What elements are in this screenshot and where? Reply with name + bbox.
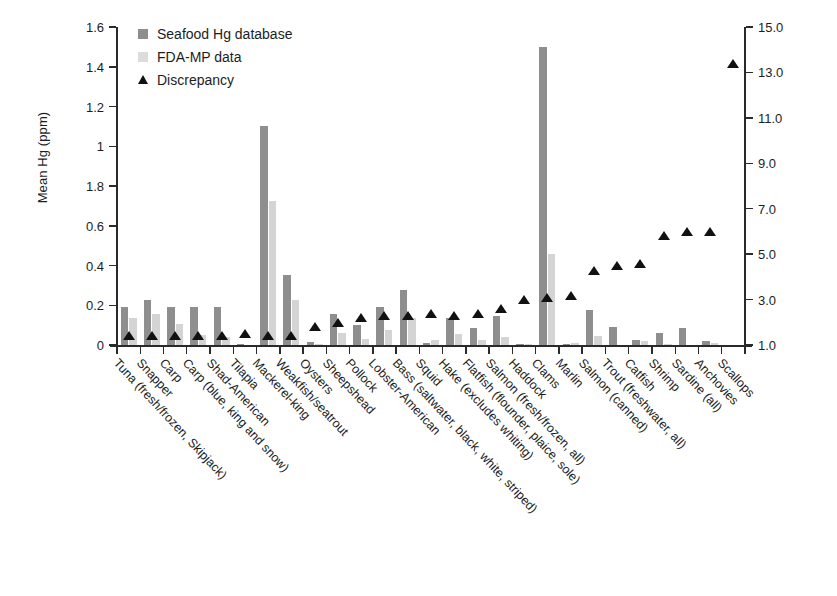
bar-group [652,27,675,345]
discrepancy-marker-triangle-icon [518,295,530,304]
right-tick-label: 5.0 [758,247,776,262]
legend-label: Seafood Hg database [157,26,292,42]
right-tick-mark [746,72,753,74]
x-tick-mark [512,346,513,354]
discrepancy-marker-triangle-icon [681,227,693,236]
x-tick-mark [116,346,117,354]
x-tick-mark [721,346,722,354]
left-tick-mark [109,106,116,108]
left-tick-mark [109,225,116,227]
bar-fda-mp-data [594,336,602,345]
legend-label: FDA-MP data [157,49,242,65]
legend-swatch-triangle-icon [138,75,148,84]
bar-group [675,27,698,345]
bar-group [489,27,512,345]
right-tick-label: 11.0 [758,110,782,125]
x-tick-mark [535,346,536,354]
discrepancy-marker-triangle-icon [262,331,274,340]
bar-fda-mp-data [455,334,463,345]
bar-fda-mp-data [641,341,649,345]
right-axis-ticks: 1.03.05.07.09.011.013.015.0 [746,27,836,346]
right-tick-label: 13.0 [758,65,783,80]
bar-seafood-hg-database [493,316,501,345]
chart-legend: Seafood Hg database FDA-MP data Discrepa… [138,22,292,91]
x-tick-mark [465,346,466,354]
left-tick-mark [109,305,116,307]
bar-fda-mp-data [315,344,323,345]
bar-seafood-hg-database [423,343,431,345]
discrepancy-marker-triangle-icon [285,331,297,340]
discrepancy-marker-triangle-icon [611,261,623,270]
bar-seafood-hg-database [516,344,524,345]
discrepancy-marker-triangle-icon [588,266,600,275]
left-tick-label: 1.2 [86,99,104,114]
left-tick-mark [109,185,116,187]
discrepancy-marker-triangle-icon [727,59,739,68]
discrepancy-marker-triangle-icon [239,329,251,338]
discrepancy-marker-triangle-icon [448,311,460,320]
x-tick-mark [605,346,606,354]
x-tick-mark [488,346,489,354]
bar-seafood-hg-database [470,328,478,345]
bar-fda-mp-data [408,318,416,345]
discrepancy-marker-triangle-icon [309,322,321,331]
bar-fda-mp-data [525,344,533,345]
discrepancy-marker-triangle-icon [658,231,670,240]
left-tick-label: 0.2 [86,298,104,313]
left-tick-mark [109,146,116,148]
discrepancy-marker-triangle-icon [472,309,484,318]
discrepancy-marker-triangle-icon [425,309,437,318]
x-tick-mark [140,346,141,354]
x-tick-mark [651,346,652,354]
discrepancy-marker-triangle-icon [634,259,646,268]
bar-group [722,27,745,345]
x-tick-mark [698,346,699,354]
bar-group [629,27,652,345]
discrepancy-marker-triangle-icon [565,291,577,300]
bar-fda-mp-data [338,333,346,345]
bar-fda-mp-data [385,330,393,345]
x-tick-mark [442,346,443,354]
bar-seafood-hg-database [632,340,640,345]
x-tick-mark [419,346,420,354]
right-tick-mark [746,253,753,255]
discrepancy-marker-triangle-icon [192,331,204,340]
left-tick-mark [109,66,116,68]
x-tick-mark [349,346,350,354]
discrepancy-marker-triangle-icon [378,311,390,320]
bar-fda-mp-data [664,344,672,345]
legend-label: Discrepancy [157,72,234,88]
x-tick-mark [675,346,676,354]
x-axis-category-labels: Tuna (fresh/frozen, Skipjack)SnapperCarp… [0,356,837,596]
legend-item-seafood-hg-database: Seafood Hg database [138,22,292,45]
x-tick-mark [256,346,257,354]
discrepancy-marker-triangle-icon [216,331,228,340]
bar-group [582,27,605,345]
bar-group [303,27,326,345]
left-tick-mark [109,265,116,267]
bar-seafood-hg-database [563,344,571,345]
right-tick-label: 9.0 [758,156,776,171]
x-tick-mark [581,346,582,354]
bar-seafood-hg-database [679,328,687,345]
x-tick-mark [744,346,745,354]
x-tick-mark [628,346,629,354]
bar-seafood-hg-database [260,126,268,345]
bar-group [117,27,140,345]
discrepancy-marker-triangle-icon [123,331,135,340]
bar-seafood-hg-database [656,333,664,345]
left-tick-label: 1.8 [86,179,104,194]
left-tick-label: 1.6 [86,20,104,35]
bar-group [443,27,466,345]
bar-group [605,27,628,345]
discrepancy-marker-triangle-icon [332,318,344,327]
left-tick-mark [109,26,116,28]
x-axis-ticks [0,346,837,356]
left-tick-label: 0.6 [86,218,104,233]
bar-group [350,27,373,345]
discrepancy-marker-triangle-icon [541,293,553,302]
bar-fda-mp-data [431,340,439,345]
x-tick-mark [209,346,210,354]
bar-seafood-hg-database [446,318,454,345]
bar-seafood-hg-database [609,327,617,345]
